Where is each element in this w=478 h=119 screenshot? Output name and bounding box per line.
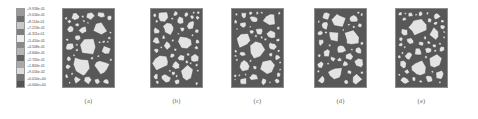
legend-label: +9.918e-01: [27, 8, 46, 12]
contour-legend: +9.918e-01+9.016e-01+8.114e-01+7.213e-01…: [16, 8, 62, 88]
panel-d: [314, 8, 367, 88]
legend-label: +6.311e-01: [27, 33, 46, 37]
legend-label-column: +9.918e-01+9.016e-01+8.114e-01+7.213e-01…: [27, 8, 46, 88]
panel-a: [62, 8, 115, 88]
legend-swatch: [17, 81, 24, 88]
panel-b: [150, 8, 203, 88]
legend-label: +0.010e+00: [27, 78, 46, 82]
panel-e: [395, 8, 448, 88]
legend-label: +7.213e-01: [27, 27, 46, 31]
panel-b-caption: (b): [150, 97, 203, 104]
legend-label: +0.000e+00: [27, 84, 46, 88]
legend-label: +1.803e-01: [27, 65, 46, 69]
panel-e-caption: (e): [395, 97, 448, 104]
legend-label: +3.606e-01: [27, 52, 46, 56]
panel-a-caption: (a): [62, 97, 115, 104]
legend-label: +5.410e-01: [27, 40, 46, 44]
figure-container: +9.918e-01+9.016e-01+8.114e-01+7.213e-01…: [0, 0, 478, 119]
panel-c-caption: (c): [231, 97, 284, 104]
legend-label: +9.016e-02: [27, 71, 46, 75]
legend-swatch-column: [16, 8, 25, 88]
panel-c: [231, 8, 284, 88]
legend-label: +2.705e-01: [27, 59, 46, 63]
panel-d-caption: (d): [314, 97, 367, 104]
legend-label: +9.016e-01: [27, 14, 46, 18]
legend-label: +8.114e-01: [27, 21, 46, 25]
legend-label: +4.508e-01: [27, 46, 46, 50]
